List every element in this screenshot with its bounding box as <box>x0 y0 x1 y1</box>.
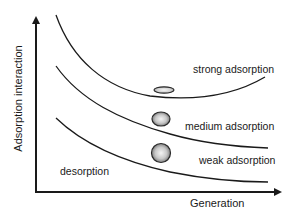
particle-medium-icon <box>152 112 170 126</box>
particle-strong-icon <box>154 87 174 93</box>
x-axis-label: Generation <box>190 198 244 209</box>
particle-weak-icon <box>152 144 171 163</box>
y-axis-label: Adsorption interaction <box>13 39 24 159</box>
label-medium-adsorption: medium adsorption <box>185 121 274 132</box>
curve-medium-boundary <box>56 66 268 148</box>
adsorption-diagram: strong adsorption medium adsorption weak… <box>0 0 300 217</box>
label-weak-adsorption: weak adsorption <box>199 155 275 166</box>
label-desorption: desorption <box>60 166 109 177</box>
label-strong-adsorption: strong adsorption <box>193 64 274 75</box>
curve-strong-boundary <box>56 15 265 98</box>
diagram-canvas <box>0 0 300 217</box>
